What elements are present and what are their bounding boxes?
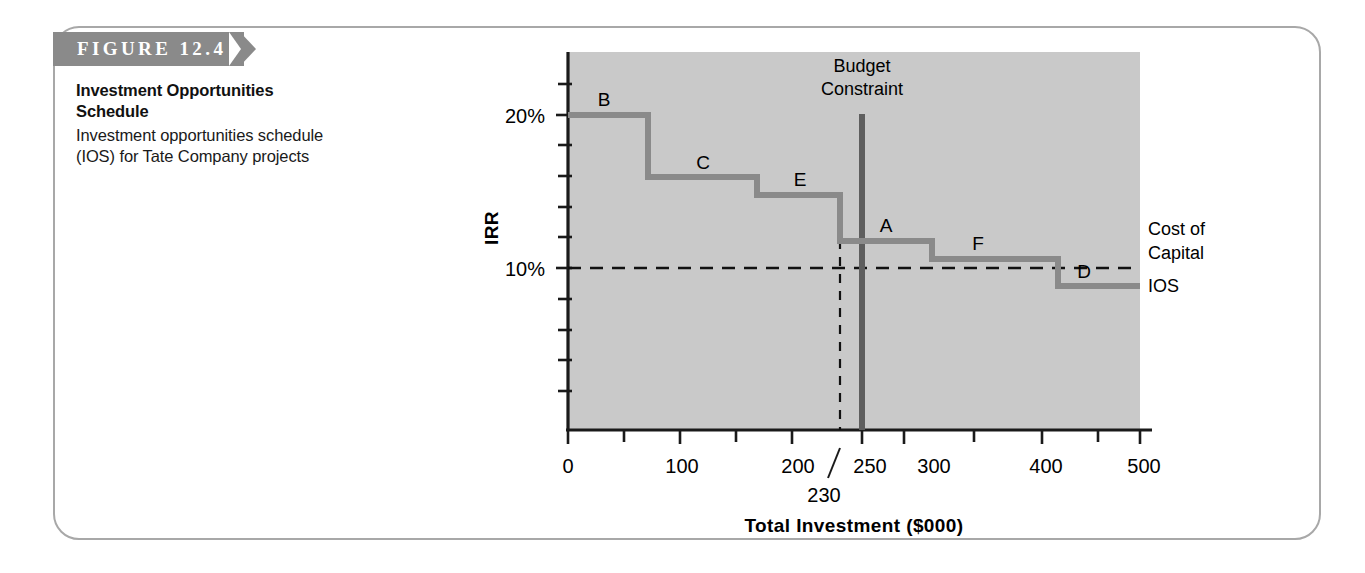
figure-number-banner: FIGURE 12.4 <box>53 32 244 66</box>
figure-caption: Investment Opportunities Schedule Invest… <box>76 80 336 166</box>
caption-title: Investment Opportunities Schedule <box>76 80 336 122</box>
caption-body: Investment opportunities schedule (IOS) … <box>76 125 336 167</box>
banner-arrow-shape <box>240 32 256 66</box>
figure-number-label: FIGURE 12.4 <box>77 38 226 60</box>
banner-notch-shape <box>229 32 241 66</box>
